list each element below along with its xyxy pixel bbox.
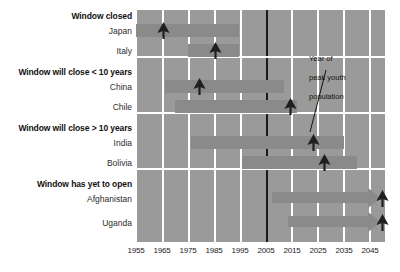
annotation-leader-line (304, 70, 334, 140)
row-label-italy: Italy (116, 46, 132, 56)
peak-marker-bolivia (318, 154, 331, 170)
group-label-yet-to-open: Window has yet to open (37, 179, 132, 189)
bar-uganda (288, 216, 368, 227)
peak-marker-uganda (376, 214, 389, 230)
row-label-bolivia: Bolivia (107, 158, 132, 168)
bar-china (165, 80, 284, 93)
peak-marker-italy (209, 42, 222, 58)
bar-chile (175, 100, 297, 113)
gridline-1955 (135, 10, 137, 242)
xtick-2045: 2045 (355, 246, 385, 255)
row-label-india: India (114, 138, 132, 148)
bar-afghanistan (272, 192, 368, 203)
gridline-1995 (240, 10, 242, 242)
gridline-1965 (162, 10, 164, 242)
bar-japan (136, 24, 239, 37)
row-label-uganda: Uganda (102, 218, 132, 228)
group-label-close-lt-10: Window will close < 10 years (18, 67, 132, 77)
peak-marker-china (193, 78, 206, 94)
chart-root: Year of peak youth population Window clo… (0, 0, 400, 272)
plot-area: Year of peak youth population (136, 10, 385, 242)
group-label-window-closed: Window closed (72, 11, 133, 21)
annotation-line-0: Year of (309, 54, 371, 64)
row-label-chile: Chile (113, 102, 132, 112)
bar-bolivia (242, 156, 357, 169)
peak-marker-japan (157, 22, 170, 38)
peak-marker-afghanistan (376, 190, 389, 206)
row-label-japan: Japan (109, 26, 132, 36)
peak-marker-chile (284, 98, 297, 114)
row-label-china: China (110, 82, 132, 92)
gridline-2015 (291, 10, 293, 242)
row-label-afghanistan: Afghanistan (87, 194, 132, 204)
group-label-close-gt-10: Window will close > 10 years (18, 123, 132, 133)
reference-line-2005 (266, 10, 268, 242)
